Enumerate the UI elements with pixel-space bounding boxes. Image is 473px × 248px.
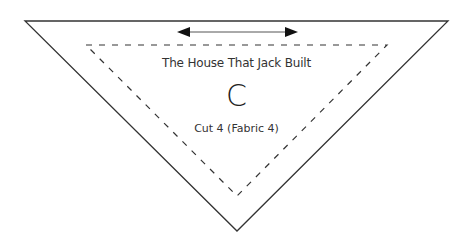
cut-instruction: Cut 4 (Fabric 4)	[0, 122, 473, 135]
piece-letter: C	[0, 78, 473, 113]
pattern-title: The House That Jack Built	[0, 56, 473, 70]
grain-arrow-icon	[177, 27, 298, 37]
